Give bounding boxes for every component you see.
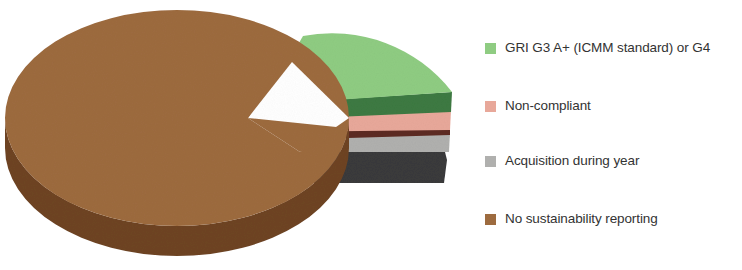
legend-swatch-no-sustainability-reporting <box>485 214 496 225</box>
pie-plot-area <box>0 0 470 270</box>
legend-label-no-sustainability-reporting: No sustainability reporting <box>505 211 658 227</box>
pie-chart-graphic <box>0 0 470 270</box>
chart-legend: GRI G3 A+ (ICMM standard) or G4 Non-comp… <box>485 30 742 250</box>
legend-swatch-acquisition-during-year <box>485 156 496 167</box>
pie-chart-figure: GRI G3 A+ (ICMM standard) or G4 Non-comp… <box>0 0 742 270</box>
legend-label-non-compliant: Non-compliant <box>505 98 591 114</box>
legend-label-gri-g3-a-plus: GRI G3 A+ (ICMM standard) or G4 <box>505 40 710 56</box>
legend-item-gri-g3-a-plus[interactable]: GRI G3 A+ (ICMM standard) or G4 <box>485 38 710 58</box>
slice-no-sustainability-reporting <box>5 10 349 256</box>
legend-swatch-gri-g3-a-plus <box>485 43 496 54</box>
legend-item-acquisition-during-year[interactable]: Acquisition during year <box>485 151 639 171</box>
legend-item-no-sustainability-reporting[interactable]: No sustainability reporting <box>485 209 658 229</box>
legend-swatch-non-compliant <box>485 101 496 112</box>
legend-item-non-compliant[interactable]: Non-compliant <box>485 96 591 116</box>
legend-label-acquisition-during-year: Acquisition during year <box>505 153 639 169</box>
